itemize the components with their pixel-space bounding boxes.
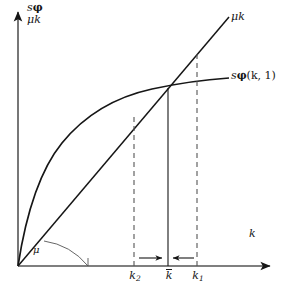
plot-canvas: [0, 0, 287, 293]
curve-label-args: (k, 1): [247, 69, 276, 82]
curve-label-phi: φ: [237, 69, 247, 82]
tick-k2-base: k: [129, 269, 136, 282]
x-axis-label: k: [249, 228, 256, 240]
solow-diagram-figure: sφ μk k μk sφ(k, 1) μ k2 k k1: [0, 0, 287, 293]
angle-label-mu: μ: [33, 245, 40, 256]
tick-label-kbar: k: [160, 270, 178, 282]
tick-k1-sub: 1: [199, 274, 204, 283]
tick-k1-base: k: [192, 269, 199, 282]
y-axis-label: sφ μk: [27, 2, 43, 25]
y-axis-label-muk: μk: [27, 14, 43, 26]
mu-k-line-label: μk: [231, 11, 245, 23]
tick-label-k1: k1: [189, 270, 207, 283]
angle-arc-mu: [44, 241, 88, 266]
tick-label-k2: k2: [126, 270, 144, 283]
tick-kbar-base: k: [166, 270, 173, 282]
s-phi-curve-label: sφ(k, 1): [231, 70, 276, 82]
tick-k2-sub: 2: [136, 274, 141, 283]
